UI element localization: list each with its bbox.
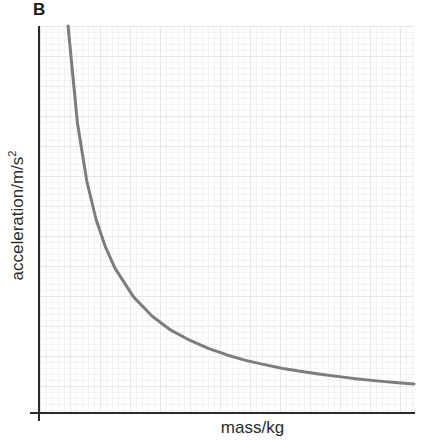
panel-label: B [33,1,46,18]
plot-area [40,26,414,413]
x-axis-line [30,412,415,414]
y-axis-title-text: acceleration/m/s [8,157,27,281]
y-axis-line [38,26,40,421]
y-axis-title: acceleration/m/s2 [9,106,26,326]
figure-panel-b: B acceleration/m/s2 mass/kg [0,0,422,442]
x-axis-title: mass/kg [160,419,345,436]
y-axis-title-exponent: 2 [6,151,18,157]
curve-svg [40,26,414,413]
inverse-proportion-curve [68,26,414,384]
